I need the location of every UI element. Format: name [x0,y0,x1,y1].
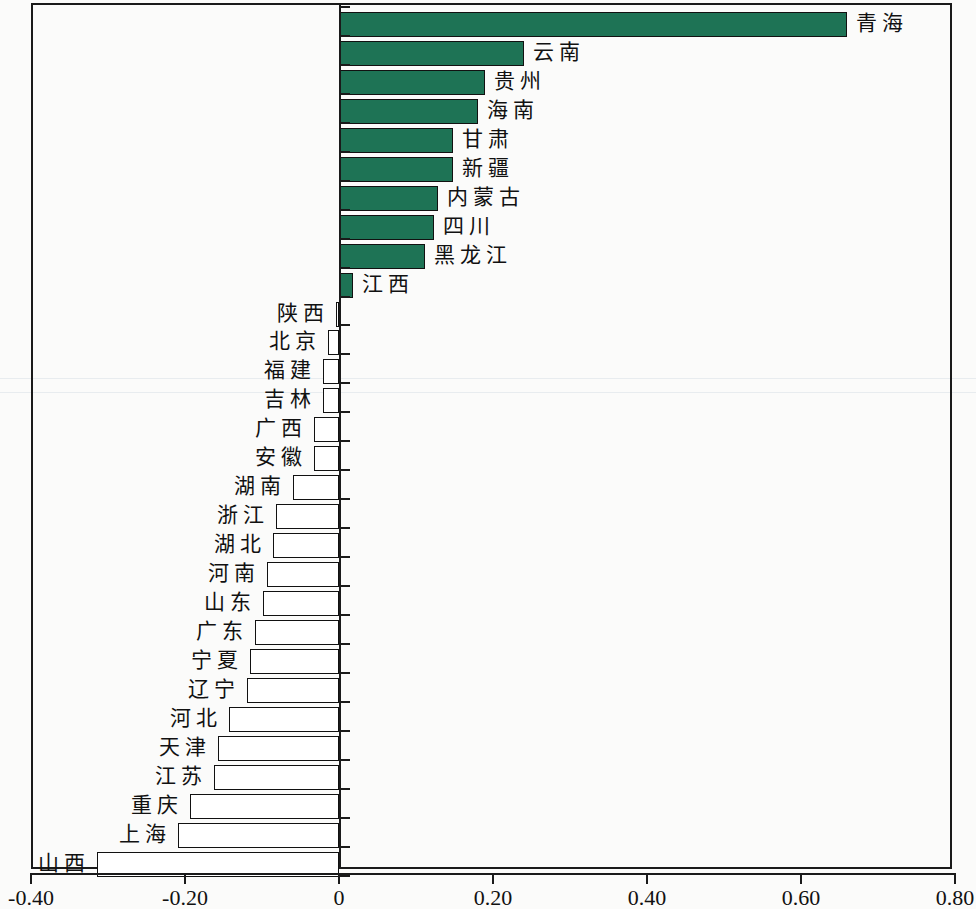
bar [339,215,434,240]
bar [190,794,339,819]
bar-row: 广西 [0,417,976,442]
x-axis-tick-label: 0.40 [628,885,667,909]
bar-row: 广东 [0,620,976,645]
bar-category-label: 新疆 [462,156,514,181]
bar-row: 安徽 [0,446,976,471]
bar [273,533,339,558]
bar-chart: 青海云南贵州海南甘肃新疆内蒙古四川黑龙江江西陕西北京福建吉林广西安徽湖南浙江湖北… [0,0,976,909]
bar [339,186,438,211]
bar-category-label: 吉林 [264,387,316,412]
bar-category-label: 湖北 [214,532,266,557]
bar [339,157,453,182]
bar [178,823,339,848]
bar [276,504,339,529]
bar-row: 云南 [0,41,976,66]
bar [339,273,353,298]
bar-row: 福建 [0,359,976,384]
bar [339,99,478,124]
bar [339,70,485,95]
bar [263,591,339,616]
x-axis-tick-label: 0.60 [782,885,821,909]
bar-category-label: 重庆 [131,793,183,818]
bar [323,359,339,384]
bar [339,41,524,66]
x-axis-tick [338,873,340,884]
bar-category-label: 山东 [204,590,256,615]
bar-category-label: 黑龙江 [434,243,512,268]
bar-category-label: 上海 [119,822,171,847]
bar-row: 甘肃 [0,128,976,153]
bar-category-label: 安徽 [255,445,307,470]
bar-category-label: 广东 [196,619,248,644]
bar-row: 吉林 [0,388,976,413]
bar-row: 湖北 [0,533,976,558]
x-axis-tick-label: 0.80 [936,885,975,909]
bar [218,736,339,761]
bar-category-label: 辽宁 [188,677,240,702]
bar-category-label: 青海 [856,11,908,36]
bar [250,649,339,674]
bar-row: 内蒙古 [0,186,976,211]
bar-category-label: 江苏 [155,764,207,789]
bar-category-label: 四川 [443,214,495,239]
bar-category-label: 河南 [208,561,260,586]
bar-category-label: 浙江 [217,503,269,528]
bar-category-label: 内蒙古 [447,185,525,210]
x-axis-tick-label: -0.20 [162,885,208,909]
bar [214,765,339,790]
bars-layer: 青海云南贵州海南甘肃新疆内蒙古四川黑龙江江西陕西北京福建吉林广西安徽湖南浙江湖北… [0,0,976,909]
bar-category-label: 天津 [159,735,211,760]
bar-row: 宁夏 [0,649,976,674]
x-axis-tick-label: 0 [334,885,345,909]
bar-row: 黑龙江 [0,244,976,269]
bar [328,330,339,355]
bar [323,388,339,413]
bar-category-label: 山西 [38,851,90,876]
bar [314,417,339,442]
bar [247,678,339,703]
bar-row: 上海 [0,823,976,848]
bar-category-label: 陕西 [277,301,329,326]
bar-row: 江西 [0,273,976,298]
bar-category-label: 河北 [170,706,222,731]
bar-row: 四川 [0,215,976,240]
x-axis-tick [492,873,494,884]
bar-row: 新疆 [0,157,976,182]
bar-category-label: 云南 [533,40,585,65]
x-axis-tick-label: -0.40 [8,885,54,909]
bar-row: 河北 [0,707,976,732]
bar [339,12,847,37]
bar [339,244,425,269]
bar-category-label: 宁夏 [191,648,243,673]
bar-category-label: 湖南 [234,474,286,499]
bar-row: 辽宁 [0,678,976,703]
bar-category-label: 海南 [487,98,539,123]
bar [255,620,339,645]
bar-row: 海南 [0,99,976,124]
x-axis-tick [184,873,186,884]
x-axis-tick [800,873,802,884]
zero-axis-line [339,3,341,869]
x-axis-tick [30,873,32,884]
bar [339,128,453,153]
bar-row: 浙江 [0,504,976,529]
bar-row: 湖南 [0,475,976,500]
bar [229,707,339,732]
bar-row: 贵州 [0,70,976,95]
x-axis-tick [954,873,956,884]
bar-category-label: 北京 [269,329,321,354]
bar-category-label: 贵州 [494,69,546,94]
bar-row: 山东 [0,591,976,616]
x-axis-tick [646,873,648,884]
bar-category-label: 江西 [362,272,414,297]
bar-category-label: 福建 [264,358,316,383]
bar-row: 江苏 [0,765,976,790]
bar-row: 河南 [0,562,976,587]
bar-row: 天津 [0,736,976,761]
x-axis-tick-label: 0.20 [474,885,513,909]
bar-category-label: 甘肃 [462,127,514,152]
bar [267,562,339,587]
bar [314,446,339,471]
bar-row: 北京 [0,330,976,355]
bar-row: 青海 [0,12,976,37]
